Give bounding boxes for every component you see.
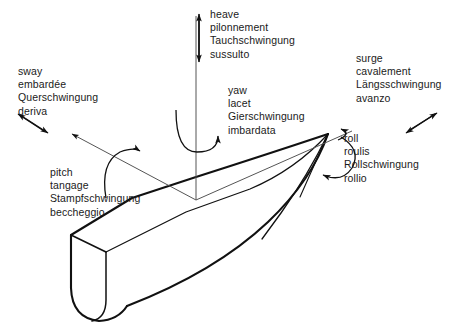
surge-arrow xyxy=(406,113,437,133)
roll-de: Rollschwingung xyxy=(344,158,419,171)
ship-motion-diagram: heave pilonnement Tauchschwingung sussul… xyxy=(0,0,465,336)
label-pitch: pitch tangage Stampfschwingung beccheggi… xyxy=(50,166,140,219)
pitch-it: beccheggio xyxy=(50,206,140,219)
surge-it: avanzo xyxy=(356,92,442,105)
label-yaw: yaw lacet Gierschwingung imbardata xyxy=(228,84,305,137)
yaw-en: yaw xyxy=(228,84,305,97)
yaw-it: imbardata xyxy=(228,124,305,137)
hull-transom-starboard-side xyxy=(92,252,106,321)
roll-en: roll xyxy=(344,132,419,145)
yaw-arc xyxy=(176,110,218,152)
label-roll: roll roulis Rollschwingung rollio xyxy=(344,132,419,185)
heave-de: Tauchschwingung xyxy=(210,34,295,47)
surge-de: Längsschwingung xyxy=(356,78,442,91)
sway-en: sway xyxy=(18,65,98,78)
yaw-de: Gierschwingung xyxy=(228,110,305,123)
label-surge: surge cavalement Längsschwingung avanzo xyxy=(356,52,442,105)
longitudinal-axis-line xyxy=(196,131,352,200)
sway-fr: embardée xyxy=(18,78,98,91)
pitch-fr: tangage xyxy=(50,179,140,192)
hull-transom-top xyxy=(71,235,106,252)
sway-de: Querschwingung xyxy=(18,91,98,104)
heave-en: heave xyxy=(210,8,295,21)
yaw-fr: lacet xyxy=(228,97,305,110)
label-sway: sway embardée Querschwingung deriva xyxy=(18,65,98,118)
pitch-en: pitch xyxy=(50,166,140,179)
roll-it: rollio xyxy=(344,172,419,185)
sway-it: deriva xyxy=(18,105,98,118)
hull-stem-inner xyxy=(262,134,328,239)
hull-bottom-chine xyxy=(127,134,328,306)
roll-fr: roulis xyxy=(344,145,419,158)
pitch-de: Stampfschwingung xyxy=(50,192,140,205)
heave-fr: pilonnement xyxy=(210,21,295,34)
surge-fr: cavalement xyxy=(356,65,442,78)
surge-en: surge xyxy=(356,52,442,65)
heave-it: sussulto xyxy=(210,48,295,61)
label-heave: heave pilonnement Tauchschwingung sussul… xyxy=(210,8,295,61)
